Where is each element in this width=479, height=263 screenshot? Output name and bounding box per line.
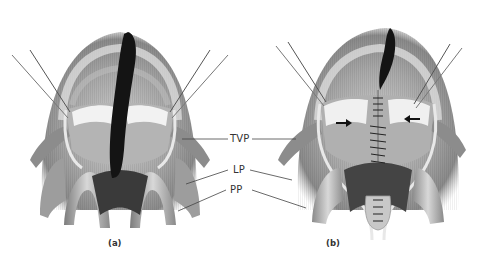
caption-panel-b: (b) xyxy=(326,238,340,248)
label-lp: LP xyxy=(233,165,245,175)
label-pp: PP xyxy=(230,185,242,195)
callout-leader-lines xyxy=(0,0,479,263)
label-tvp: TVP xyxy=(230,134,250,144)
caption-panel-a: (a) xyxy=(108,238,122,248)
